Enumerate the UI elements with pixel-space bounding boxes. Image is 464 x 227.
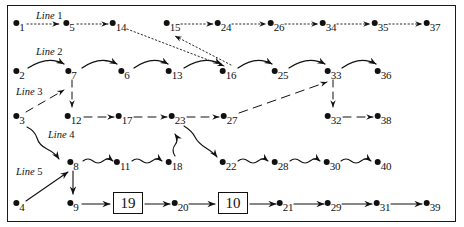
node-label: 24 [221,21,232,33]
line-label-3-num: 3 [37,86,42,97]
node-2[interactable]: 2 [13,64,24,80]
node-24[interactable]: 24 [215,16,232,32]
node-32[interactable]: 32 [325,109,342,125]
node-23[interactable]: 23 [169,109,186,125]
node-label: 37 [430,21,441,33]
node-17[interactable]: 17 [116,109,133,125]
node-7[interactable]: 7 [65,64,76,80]
node-label: 17 [122,114,133,126]
node-12[interactable]: 12 [65,109,82,125]
node-label: 29 [331,201,342,213]
line-label-4-num: 4 [69,129,74,140]
node-36[interactable]: 36 [375,64,392,80]
node-16[interactable]: 16 [220,64,237,80]
node-label: 16 [226,69,237,81]
node-3[interactable]: 3 [13,109,24,125]
node-label: 13 [172,69,183,81]
node-26[interactable]: 26 [268,16,285,32]
line-label-5-num: 5 [37,166,42,177]
node-30[interactable]: 30 [324,155,341,171]
node-label: 7 [71,69,76,81]
node-label: 20 [178,201,189,213]
node-label: 27 [227,114,238,126]
node-label: 38 [381,114,392,126]
node-label: 35 [378,21,389,33]
node-34[interactable]: 34 [320,16,337,32]
node-label: 28 [278,160,289,172]
node-label: 5 [69,21,74,33]
edge-23-to-22-path [184,126,217,157]
node-28[interactable]: 28 [272,155,289,171]
node-22[interactable]: 22 [220,155,237,171]
node-33[interactable]: 33 [325,64,342,80]
node-14[interactable]: 14 [110,16,127,32]
node-31[interactable]: 31 [374,196,391,212]
node-39[interactable]: 39 [424,196,441,212]
node-label: 32 [331,114,342,126]
node-11[interactable]: 11 [114,155,130,171]
edge-18-to-23-path [173,134,177,156]
node-label: 23 [175,114,186,126]
edge-27-to-33-path [239,82,327,113]
node-1[interactable]: 1 [13,16,24,32]
node-label: 2 [19,69,24,81]
node-label: 1 [19,21,24,33]
node-label: 25 [278,69,289,81]
node-35[interactable]: 35 [372,16,389,32]
node-21[interactable]: 21 [277,196,294,212]
line-label-4: Line 4 [48,130,75,141]
node-label: 40 [381,160,392,172]
node-40[interactable]: 40 [375,155,392,171]
node-13[interactable]: 13 [166,64,183,80]
line-label-4-word: Line [48,129,67,140]
node-37[interactable]: 37 [424,16,441,32]
node-label: 31 [380,201,391,213]
node-label: 36 [381,69,392,81]
node-label: 4 [19,201,24,213]
node-label: 6 [124,69,129,81]
node-15[interactable]: 15 [164,16,181,32]
line-label-5-word: Line [16,166,35,177]
node-label: 33 [331,69,342,81]
line-label-1-num: 1 [57,10,62,21]
node-25[interactable]: 25 [272,64,289,80]
node-label: 11 [120,160,130,172]
node-8[interactable]: 8 [67,155,78,171]
node-label: 3 [19,114,24,126]
node-6[interactable]: 6 [118,64,129,80]
node-box-10[interactable]: 10 [218,192,248,214]
node-27[interactable]: 27 [221,109,238,125]
node-label: 15 [170,21,181,33]
node-4[interactable]: 4 [13,196,24,212]
node-label: 8 [73,160,78,172]
node-label: 9 [73,201,78,213]
diagram-canvas: Line 1 Line 2 Line 3 Line 4 Line 5 15141… [0,0,464,227]
node-38[interactable]: 38 [375,109,392,125]
line-label-1: Line 1 [36,11,63,22]
line-label-2-word: Line [36,46,55,57]
node-18[interactable]: 18 [166,155,183,171]
node-label: 34 [326,21,337,33]
node-label: 39 [430,201,441,213]
node-label: 22 [226,160,237,172]
node-label: 26 [274,21,285,33]
line-label-2-num: 2 [57,46,62,57]
node-5[interactable]: 5 [63,16,74,32]
line-label-2: Line 2 [36,47,63,58]
line-label-3: Line 3 [16,87,43,98]
node-label: 21 [283,201,294,213]
node-box-19[interactable]: 19 [113,192,143,214]
node-20[interactable]: 20 [172,196,189,212]
node-label: 14 [116,21,127,33]
line-label-1-word: Line [36,10,55,21]
line-label-5: Line 5 [16,167,43,178]
node-9[interactable]: 9 [67,196,78,212]
node-label: 30 [330,160,341,172]
node-29[interactable]: 29 [325,196,342,212]
node-label: 12 [71,114,82,126]
line-label-3-word: Line [16,86,35,97]
node-label: 18 [172,160,183,172]
